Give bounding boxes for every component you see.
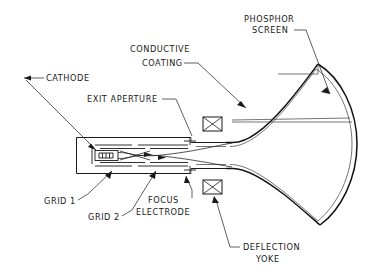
leader-deflection-yoke-arrow xyxy=(212,196,219,203)
label-conductive-coating-line1: CONDUCTIVE xyxy=(130,44,190,54)
leader-conductive-coating xyxy=(184,63,246,108)
label-deflection-yoke-line1: DEFLECTION xyxy=(243,242,300,252)
leader-conductive-coating-arrow xyxy=(237,101,246,108)
tube-funnel-bottom-outer xyxy=(226,169,320,226)
leader-phosphor-screen xyxy=(294,30,330,94)
faceplate-inner-diag xyxy=(232,118,350,120)
label-exit-aperture: EXIT APERTURE xyxy=(87,94,158,104)
label-group: PHOSPHOR SCREEN CONDUCTIVE COATING CATHO… xyxy=(44,14,300,264)
leader-cathode-diagonal xyxy=(26,80,96,150)
leader-deflection-yoke xyxy=(216,200,240,247)
crt-diagram: PHOSPHOR SCREEN CONDUCTIVE COATING CATHO… xyxy=(0,0,376,278)
beam-arrow-1 xyxy=(144,152,152,157)
electron-beam-lower xyxy=(118,155,232,167)
leader-cathode-arrow-left xyxy=(24,76,31,81)
label-focus-electrode-line1: FOCUS xyxy=(148,195,179,205)
deflection-yoke xyxy=(203,117,222,194)
label-grid-2: GRID 2 xyxy=(88,212,120,222)
leader-exit-aperture xyxy=(162,99,192,136)
leader-grid-2-arrow xyxy=(149,171,156,179)
label-focus-electrode-line2: ELECTRODE xyxy=(136,207,190,217)
cathode-heater-box xyxy=(95,151,118,161)
electron-beam xyxy=(118,143,232,167)
label-conductive-coating-line2: COATING xyxy=(142,58,183,68)
label-phosphor-screen-line2: SCREEN xyxy=(252,25,288,35)
leader-grid-1-arrow xyxy=(105,171,112,179)
conductive-coating-top xyxy=(230,69,316,147)
crt-diagram-canvas: PHOSPHOR SCREEN CONDUCTIVE COATING CATHO… xyxy=(0,0,376,278)
label-deflection-yoke-line2: YOKE xyxy=(255,254,280,264)
phosphor-screen-outer-face xyxy=(318,64,357,225)
label-grid-1: GRID 1 xyxy=(44,196,76,206)
label-phosphor-screen-line1: PHOSPHOR xyxy=(244,14,294,24)
label-cathode: CATHODE xyxy=(46,73,90,83)
leader-focus-electrode-arrow xyxy=(184,176,190,183)
